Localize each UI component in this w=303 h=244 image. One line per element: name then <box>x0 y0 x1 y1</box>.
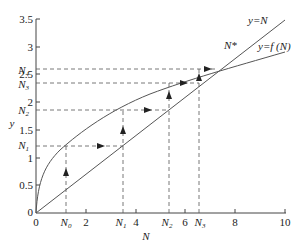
cobweb-arrows <box>63 66 212 176</box>
svg-text:8: 8 <box>232 216 238 228</box>
svg-text:4: 4 <box>133 216 139 228</box>
arrow-right-icon <box>204 66 212 72</box>
svg-text:N4: N4 <box>17 64 29 78</box>
label-y-eq-fn: y=f (N) <box>257 40 291 53</box>
svg-text:6: 6 <box>182 216 188 228</box>
arrow-right-icon <box>144 107 152 113</box>
svg-text:0.5: 0.5 <box>19 179 33 191</box>
svg-text:0: 0 <box>33 216 39 228</box>
svg-text:10: 10 <box>280 216 292 228</box>
x-axis-label: N <box>141 230 150 242</box>
svg-text:N3: N3 <box>194 216 206 230</box>
svg-text:N3: N3 <box>17 78 29 92</box>
svg-text:N0: N0 <box>60 216 72 230</box>
svg-text:N1: N1 <box>115 216 127 230</box>
arrow-up-icon <box>120 126 126 134</box>
svg-text:3: 3 <box>28 41 34 53</box>
line-y-eq-n <box>36 20 285 213</box>
svg-text:N2: N2 <box>161 216 173 230</box>
label-y-eq-n: y=N <box>247 14 268 26</box>
y-ticks <box>36 19 40 185</box>
svg-text:3.5: 3.5 <box>19 13 33 25</box>
arrow-right-icon <box>97 143 105 149</box>
svg-text:N1: N1 <box>17 139 29 153</box>
x-ticks <box>86 209 285 213</box>
svg-text:2: 2 <box>83 216 89 228</box>
svg-text:1.5: 1.5 <box>19 124 33 136</box>
curve-f-n <box>36 52 285 213</box>
arrow-up-icon <box>63 168 69 176</box>
arrow-up-icon <box>166 91 172 99</box>
cobweb-chart: 3.5 3 2.5 2 1.5 1 0.5 0 0 2 4 6 8 10 N y <box>0 0 303 244</box>
cobweb-dashes <box>36 69 215 213</box>
y-axis-label: y <box>9 117 15 129</box>
label-n-star: N* <box>223 39 237 51</box>
y-marker-labels: N1 N2 N3 N4 <box>17 64 29 153</box>
svg-text:2: 2 <box>28 96 34 108</box>
svg-text:1: 1 <box>28 152 34 164</box>
